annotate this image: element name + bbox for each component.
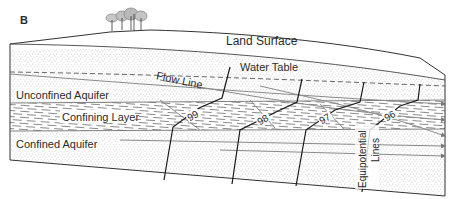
confined-aquifer-label: Confined Aquifer <box>16 138 98 150</box>
equipotential-lines-label-2: Lines <box>370 138 381 162</box>
equipotential-lines-label-1: Equipotential <box>357 130 368 188</box>
groundwater-cross-section-diagram: B <box>0 0 456 199</box>
land-surface-label: Land Surface <box>226 34 298 48</box>
panel-label: B <box>20 14 28 26</box>
water-table-label: Water Table <box>240 61 298 73</box>
confining-layer-label: Confining Layer <box>62 111 139 123</box>
unconfined-aquifer-label: Unconfined Aquifer <box>16 89 109 101</box>
